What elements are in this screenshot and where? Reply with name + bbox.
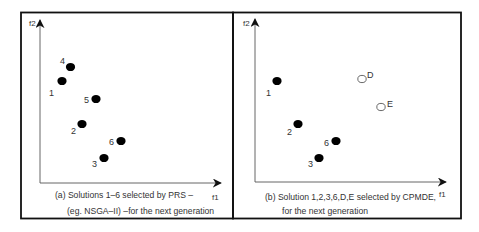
point-a-6 <box>116 137 125 145</box>
point-b-1-label: 1 <box>266 88 271 98</box>
point-b-E-label: E <box>387 99 393 109</box>
point-b-D-label: D <box>367 70 374 80</box>
panel-b: f2 f1 1 D E 2 6 3 (b) Solution 1,2,3,6,D… <box>233 13 461 219</box>
panel-a: f2 f1 4 1 5 2 6 3 (a) Solutions 1–6 sele… <box>21 13 233 219</box>
panel-a-frame <box>21 13 233 219</box>
point-b-2 <box>293 120 302 128</box>
point-a-5-label: 5 <box>84 95 89 105</box>
point-a-2-label: 2 <box>71 126 76 136</box>
panel-a-x-axis-label: f1 <box>212 193 219 202</box>
point-b-3-label: 3 <box>308 159 313 169</box>
panel-a-caption-line2: (eg. NSGA–II) –for the next generation <box>67 206 214 216</box>
point-a-3-label: 3 <box>92 159 97 169</box>
panel-b-y-axis-label: f2 <box>243 19 250 28</box>
point-b-6 <box>331 137 340 145</box>
point-a-6-label: 6 <box>109 137 114 147</box>
figure-canvas: f2 f1 4 1 5 2 6 3 (a) Solutions 1–6 sele… <box>0 0 479 232</box>
point-a-4-label: 4 <box>60 56 65 66</box>
point-a-3 <box>99 154 108 162</box>
point-a-5 <box>91 95 100 103</box>
panel-b-frame <box>233 13 461 219</box>
point-a-1 <box>57 77 66 85</box>
point-a-4 <box>66 63 75 71</box>
point-a-1-label: 1 <box>49 88 54 98</box>
point-b-3 <box>314 154 323 162</box>
panel-b-caption-line1: (b) Solution 1,2,3,6,D,E selected by CPM… <box>265 192 436 202</box>
point-b-E <box>377 103 385 110</box>
panel-a-y-axis-label: f2 <box>29 19 36 28</box>
panel-a-caption-line1: (a) Solutions 1–6 selected by PRS – <box>55 190 193 200</box>
panel-b-caption-line2: for the next generation <box>282 206 368 216</box>
panel-b-x-axis-label: f1 <box>439 190 446 199</box>
point-a-2 <box>77 120 86 128</box>
point-b-6-label: 6 <box>324 138 329 148</box>
point-b-D <box>358 75 366 82</box>
point-b-2-label: 2 <box>287 127 292 137</box>
point-b-1 <box>272 77 281 85</box>
